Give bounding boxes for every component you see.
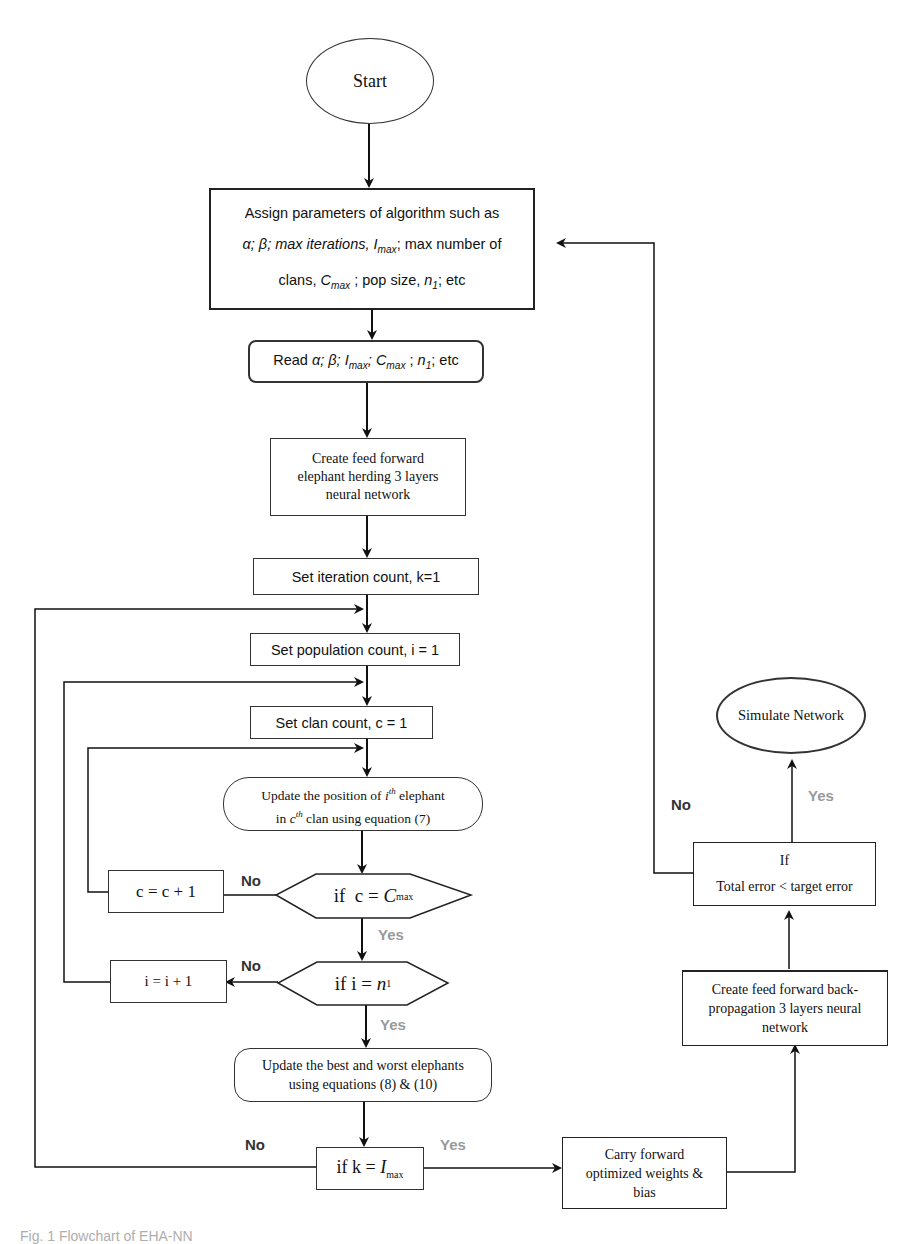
assign-line-2-pre: α; β; max iterations, — [243, 236, 374, 252]
increment-population-box: i = i + 1 — [110, 960, 227, 1003]
create-ehnn-line-2: elephant herding 3 layers — [297, 468, 438, 486]
simulate-network-terminal: Simulate Network — [716, 677, 866, 754]
if-i-pre: if i = — [335, 973, 377, 995]
update-position-line-2: in cth clan using equation (7) — [276, 804, 430, 828]
if-error-decision: If Total error < target error — [693, 842, 876, 906]
if-c-decision: if c = Cmax — [276, 874, 471, 918]
upd-i-sup: th — [389, 786, 396, 796]
set-population-count-box: Set population count, i = 1 — [250, 633, 460, 666]
read-pre: Read — [273, 352, 312, 368]
assign-parameters-box: Assign parameters of algorithm such as α… — [209, 188, 535, 310]
assign-line-2: α; β; max iterations, Imax; max number o… — [243, 229, 502, 265]
create-ehnn-line-3: neural network — [326, 486, 410, 504]
read-sep-1: ; — [368, 352, 376, 368]
start-label: Start — [353, 71, 387, 92]
if-error-line-2: Total error < target error — [716, 874, 852, 900]
assign-line-3-post: ; etc — [438, 272, 465, 288]
if-i-text: if i = n1 — [278, 962, 448, 1005]
read-post: ; etc — [431, 352, 458, 368]
upd-post-1: elephant — [396, 787, 445, 802]
read-n-var: n — [418, 352, 426, 368]
if-i-decision: if i = n1 — [278, 962, 448, 1005]
carry-line-2: optimized weights & — [586, 1164, 703, 1183]
if-i-no-label: No — [241, 957, 261, 974]
assign-line-3-pre: clans, — [279, 272, 321, 288]
carry-forward-box: Carry forward optimized weights & bias — [562, 1137, 727, 1209]
if-error-no-label: No — [671, 796, 691, 813]
update-best-line-2: using equations (8) & (10) — [289, 1075, 438, 1094]
c-max-sub: max — [331, 279, 350, 290]
set-i-label: Set population count, i = 1 — [271, 642, 439, 658]
if-k-sub: max — [386, 1169, 403, 1180]
if-i-var: n — [377, 973, 387, 995]
if-c-sub: max — [396, 891, 413, 902]
c-max-var: C — [321, 272, 331, 288]
simulate-label: Simulate Network — [738, 707, 844, 724]
create-bpnn-line-3: network — [762, 1018, 808, 1037]
read-greek: α; β; — [312, 352, 345, 368]
if-k-pre: if k = — [337, 1157, 381, 1177]
assign-line-2-post: ; max number of — [397, 236, 502, 252]
c-inc-label: c = c + 1 — [136, 882, 196, 902]
create-backprop-nn-box: Create feed forward back- propagation 3 … — [682, 970, 888, 1046]
update-best-worst-box: Update the best and worst elephants usin… — [234, 1048, 492, 1102]
read-sep-2: ; — [406, 352, 418, 368]
create-elephant-herding-nn-box: Create feed forward elephant herding 3 l… — [270, 438, 466, 516]
create-bpnn-line-2: propagation 3 layers neural — [709, 999, 862, 1018]
if-c-pre: if c = — [334, 885, 384, 907]
update-position-line-1: Update the position of ith elephant — [261, 781, 445, 805]
read-c-var: C — [376, 352, 386, 368]
if-c-yes-label: Yes — [378, 926, 404, 943]
upd-pre-1: Update the position of — [261, 787, 385, 802]
set-k-label: Set iteration count, k=1 — [292, 569, 441, 585]
if-k-no-label: No — [245, 1136, 265, 1153]
if-c-text: if c = Cmax — [276, 874, 471, 918]
if-error-line-1: If — [780, 848, 789, 874]
i-inc-label: i = i + 1 — [145, 973, 193, 990]
upd-post-2: clan using equation (7) — [303, 811, 430, 826]
if-error-yes-label: Yes — [808, 787, 834, 804]
assign-line-3: clans, Cmax ; pop size, n1; etc — [279, 265, 466, 301]
upd-c-sup: th — [296, 809, 303, 819]
read-parameters-box: Read α; β; Imax; Cmax ; n1; etc — [248, 340, 484, 383]
increment-clan-box: c = c + 1 — [108, 870, 224, 913]
if-i-sub: 1 — [386, 978, 391, 989]
if-c-no-label: No — [241, 872, 261, 889]
read-line: Read α; β; Imax; Cmax ; n1; etc — [273, 352, 458, 371]
i-max-sub: max — [378, 244, 397, 255]
update-best-line-1: Update the best and worst elephants — [262, 1056, 464, 1075]
read-c-sub: max — [386, 360, 405, 371]
start-terminal: Start — [306, 38, 434, 124]
set-iteration-count-box: Set iteration count, k=1 — [253, 558, 479, 595]
upd-pre-2: in — [276, 811, 290, 826]
carry-line-3: bias — [633, 1183, 656, 1202]
if-i-yes-label: Yes — [380, 1016, 406, 1033]
if-k-decision: if k = Imax — [316, 1147, 424, 1190]
assign-line-1: Assign parameters of algorithm such as — [245, 198, 500, 229]
figure-caption: Fig. 1 Flowchart of EHA-NN — [20, 1228, 193, 1244]
if-k-text: if k = Imax — [337, 1157, 404, 1180]
update-position-box: Update the position of ith elephant in c… — [223, 777, 483, 831]
assign-line-3-mid: ; pop size, — [350, 272, 424, 288]
read-i-sub: max — [349, 360, 368, 371]
create-ehnn-line-1: Create feed forward — [312, 450, 424, 468]
carry-line-1: Carry forward — [605, 1145, 685, 1164]
if-c-var: C — [383, 885, 396, 907]
set-clan-count-box: Set clan count, c = 1 — [250, 706, 433, 739]
create-bpnn-line-1: Create feed forward back- — [712, 980, 859, 999]
if-k-yes-label: Yes — [440, 1136, 466, 1153]
set-c-label: Set clan count, c = 1 — [276, 715, 408, 731]
